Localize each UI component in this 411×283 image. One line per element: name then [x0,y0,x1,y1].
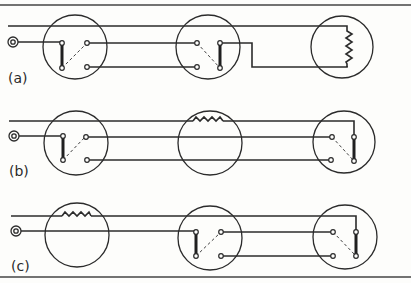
switch-2-alt-position [197,43,220,68]
supply-terminal-icon [9,131,19,141]
switch-2-circle [313,205,377,269]
panel-label-b: (b) [9,163,29,179]
switch-1-alt-position [196,232,221,256]
switched-live-wire [223,121,354,137]
lamp-resistor-icon [193,117,223,121]
lamp-circle [178,111,242,175]
wiring-diagram: (a) (b) [0,0,411,283]
panel-a: (a) [8,15,373,86]
switch-2-circle [176,15,240,79]
switch-2-alt-position [332,137,354,161]
lamp-resistor-icon [62,212,91,216]
panel-b: (b) [9,111,375,179]
switch-1-circle [43,15,107,79]
lamp-circle [45,203,109,267]
panel-label-c: (c) [11,258,30,274]
switch-1-alt-position [63,136,86,160]
switch-2-alt-position [333,232,356,256]
supply-terminal-icon [8,37,18,47]
line-wire [8,26,347,28]
panel-label-a: (a) [8,70,28,86]
lamp-resistor-icon [346,28,352,67]
panel-c: (c) [11,203,377,274]
supply-terminal-icon [11,226,21,236]
switch-1-alt-position [62,43,87,68]
